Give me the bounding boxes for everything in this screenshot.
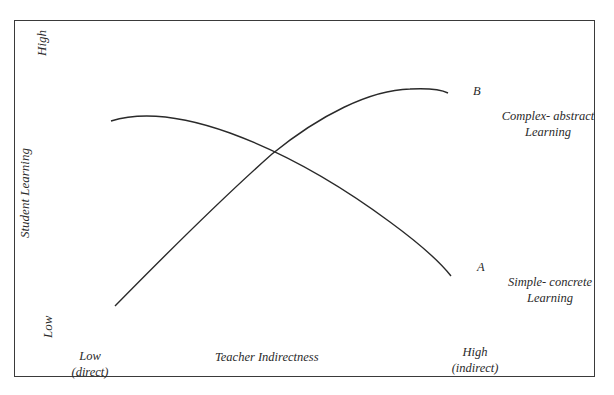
curve-b-label: Complex- abstract Learning [498, 109, 598, 140]
curve-b-label-line1: Complex- abstract [498, 109, 598, 125]
plot-area [0, 0, 614, 395]
x-high-subtext: (indirect) [440, 361, 510, 377]
curve-a-label: Simple- concrete Learning [502, 275, 598, 306]
curve-a-label-line2: Learning [502, 291, 598, 307]
x-high-label: High (indirect) [440, 345, 510, 376]
x-low-subtext: (direct) [60, 365, 120, 381]
curve-b-complex-abstract [115, 89, 448, 306]
y-low-label: Low [40, 316, 56, 338]
x-axis-title: Teacher Indirectness [215, 350, 319, 366]
curve-a-simple-concrete [111, 116, 451, 276]
x-low-label: Low (direct) [60, 349, 120, 380]
y-high-label: High [34, 30, 50, 56]
curve-b-letter: B [473, 84, 481, 100]
x-high-text: High [440, 345, 510, 361]
x-low-text: Low [60, 349, 120, 365]
curve-a-letter: A [477, 260, 485, 276]
y-axis-title: Student Learning [17, 148, 33, 238]
curve-b-label-line2: Learning [498, 125, 598, 141]
curve-a-label-line1: Simple- concrete [502, 275, 598, 291]
